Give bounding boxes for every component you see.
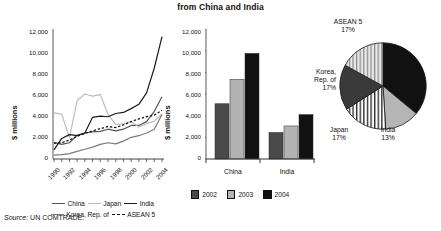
- pie-label-india-value: 13%: [372, 134, 404, 143]
- pie-label-asean5-value: 17%: [320, 26, 376, 35]
- bar-chart-plot-area: [205, 29, 315, 169]
- bar-india-2002: [269, 132, 283, 159]
- legend-item-japan[interactable]: Japan: [88, 200, 121, 207]
- bar-chart-panel: $ millions 12,000 10,000 8,000 6,000 4,0…: [155, 16, 315, 216]
- bar-chart-category-china: China: [213, 168, 253, 175]
- figure-container: from China and India $ millions 12,000 1…: [0, 0, 441, 231]
- bar-chart-ytick-0: 0: [167, 154, 201, 161]
- line-chart-ytick-10000: 10,000: [14, 49, 48, 56]
- line-series-japan: [54, 94, 162, 138]
- line-chart-ytick-6000: 6,000: [14, 91, 48, 98]
- legend-label-china: China: [67, 200, 84, 207]
- source-keyword: Source:: [4, 214, 28, 221]
- legend-label-asean5: ASEAN 5: [127, 211, 155, 218]
- legend-item-india[interactable]: India: [124, 200, 154, 207]
- legend-label-2004: 2004: [275, 191, 290, 198]
- legend-label-japan: Japan: [103, 200, 121, 207]
- bar-china-2002: [215, 104, 229, 159]
- legend-item-china[interactable]: China: [52, 200, 85, 207]
- bar-chart-ytick-10000: 10,000: [167, 49, 201, 56]
- line-chart-ytick-12000: 12,000: [14, 28, 48, 35]
- legend-label-india: India: [140, 200, 154, 207]
- legend-swatch-asean5: [112, 214, 125, 215]
- pie-label-china-value: 36%: [396, 69, 410, 78]
- source-text: UN COMTRADE.: [28, 214, 84, 221]
- legend-swatch-japan: [88, 203, 101, 204]
- bar-china-2004: [245, 53, 259, 159]
- legend-label-2003: 2003: [238, 191, 253, 198]
- line-series-china: [54, 97, 162, 145]
- legend-item-2003[interactable]: 2003: [227, 190, 253, 199]
- legend-item-2002[interactable]: 2002: [191, 190, 217, 199]
- line-chart-panel: $ millions 12,000 10,000 8,000 6,000 4,0…: [2, 16, 162, 216]
- pie-label-japan-value: 17%: [322, 134, 356, 143]
- bar-chart-ytick-2000: 2,000: [167, 133, 201, 140]
- line-chart-ytick-4000: 4,000: [14, 112, 48, 119]
- bar-chart-ytick-12000: 12,000: [167, 28, 201, 35]
- bar-chart-ytick-6000: 6,000: [167, 91, 201, 98]
- legend-swatch-india: [124, 203, 137, 204]
- bar-china-2003: [230, 79, 244, 159]
- legend-item-asean5[interactable]: ASEAN 5: [112, 211, 155, 218]
- legend-swatch-china: [52, 203, 65, 204]
- line-chart-plot-area: [52, 29, 164, 163]
- bar-chart-legend: 2002 2003 2004: [165, 190, 315, 199]
- line-chart-ytick-2000: 2,000: [14, 133, 48, 140]
- bar-india-2003: [284, 126, 298, 159]
- legend-swatch-2003: [227, 190, 236, 199]
- line-chart-ytick-8000: 8,000: [14, 70, 48, 77]
- legend-label-2002: 2002: [202, 191, 217, 198]
- line-chart-ytick-0: 0: [14, 154, 48, 161]
- legend-swatch-2004: [263, 190, 272, 199]
- source-note: Source: UN COMTRADE.: [4, 214, 84, 221]
- figure-title: from China and India: [0, 2, 441, 12]
- bar-chart-ytick-4000: 4,000: [167, 112, 201, 119]
- pie-chart-plot-area: [338, 41, 428, 131]
- pie-chart-panel: ASEAN 5 17% China 36% India 13% Japan 17…: [300, 16, 441, 216]
- bar-chart-ytick-8000: 8,000: [167, 70, 201, 77]
- legend-item-2004[interactable]: 2004: [263, 190, 289, 199]
- legend-swatch-2002: [191, 190, 200, 199]
- pie-label-korea-value: 17%: [298, 84, 336, 93]
